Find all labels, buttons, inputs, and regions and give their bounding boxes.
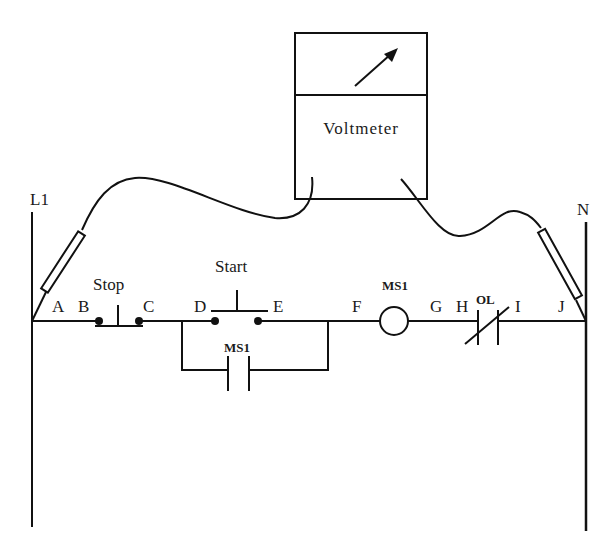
point-c: C	[143, 297, 154, 316]
seal-in-label: MS1	[224, 340, 250, 355]
probe-left	[41, 231, 85, 292]
stop-label: Stop	[93, 275, 124, 294]
rail-label-n: N	[577, 200, 589, 219]
voltmeter-label: Voltmeter	[323, 119, 399, 138]
start-pushbutton	[211, 290, 268, 325]
overload-contact	[465, 307, 509, 345]
point-d: D	[194, 297, 206, 316]
probe-tip-right	[576, 300, 586, 321]
point-e: E	[273, 297, 283, 316]
ladder-diagram: Voltmeter L1 N Stop Start MS1 MS1 OL A B…	[0, 0, 616, 557]
probe-tip-left	[32, 292, 46, 321]
ms1-coil	[380, 307, 408, 335]
point-b: B	[78, 297, 89, 316]
point-i: I	[515, 297, 521, 316]
point-f: F	[352, 297, 361, 316]
ms1-seal-in-contact	[182, 321, 328, 391]
coil-label: MS1	[382, 278, 408, 293]
point-h: H	[456, 297, 468, 316]
voltmeter	[295, 33, 427, 199]
rail-label-l1: L1	[30, 190, 49, 209]
stop-pushbutton	[95, 305, 143, 326]
probe-lead-left	[82, 177, 312, 230]
start-label: Start	[215, 257, 247, 276]
probe-right	[538, 229, 582, 299]
point-j: J	[558, 297, 565, 316]
point-g: G	[430, 297, 442, 316]
ol-label: OL	[476, 292, 495, 307]
point-a: A	[52, 297, 65, 316]
